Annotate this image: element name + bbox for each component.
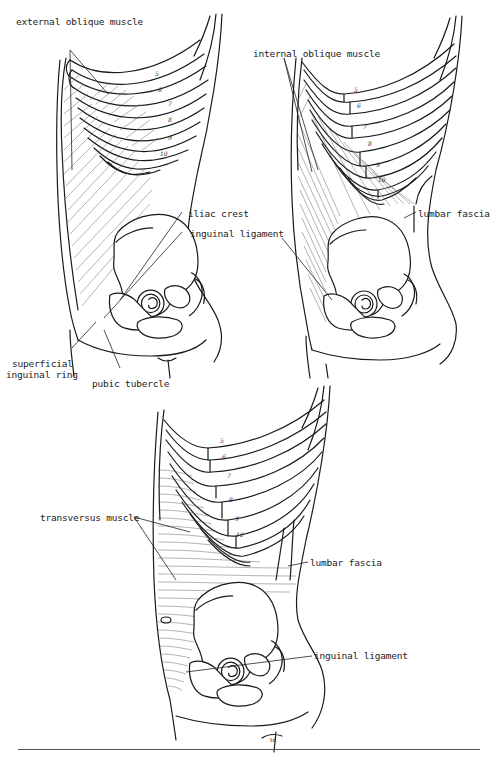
label-inguinal-ligament-bottom: inguinal ligament: [314, 650, 408, 661]
label-lumbar-fascia-bottom: lumbar fascia: [310, 557, 382, 568]
label-external-oblique-muscle: external oblique muscle: [16, 16, 143, 27]
rib-number: 9: [235, 515, 239, 522]
rib-number: 6: [357, 102, 361, 109]
label-superficial-inguinal-ring-2: inguinal ring: [6, 369, 78, 380]
rib-number: 6: [222, 453, 226, 460]
rib-number: 9: [376, 161, 380, 168]
rib-number: 5: [220, 437, 224, 444]
rib-number: 8: [368, 140, 372, 147]
label-inguinal-ligament-top: inguinal ligament: [190, 228, 284, 239]
label-internal-oblique-muscle: internal oblique muscle: [253, 48, 380, 59]
label-lumbar-fascia-top: lumbar fascia: [418, 208, 490, 219]
bottom-rule-divider: [18, 749, 480, 750]
rib-number: 7: [363, 123, 367, 130]
rib-number: 10: [160, 150, 168, 157]
rib-number: 5: [354, 86, 358, 93]
artist-signature: td: [270, 736, 276, 743]
rib-number: 9: [168, 134, 172, 141]
label-superficial-inguinal-ring-1: superficial: [12, 358, 73, 369]
rib-number: 10: [378, 176, 386, 183]
figure-internal-oblique: [282, 16, 462, 378]
label-iliac-crest: iliac crest: [188, 208, 249, 219]
figure-external-oblique: [57, 14, 222, 378]
rib-number: 8: [229, 496, 233, 503]
rib-number: 8: [168, 116, 172, 123]
rib-number: 6: [158, 86, 162, 93]
rib-number: 7: [227, 472, 231, 479]
rib-number: 5: [155, 70, 159, 77]
rib-number: 7: [168, 100, 172, 107]
rib-number: 10: [236, 531, 244, 538]
label-transversus-muscle: transversus muscle: [40, 512, 139, 523]
label-pubic-tubercle: pubic tubercle: [92, 378, 169, 389]
figure-transversus: [134, 386, 330, 752]
drawing-canvas: [0, 0, 495, 765]
anatomical-figure: external oblique muscle iliac crest ingu…: [0, 0, 495, 765]
